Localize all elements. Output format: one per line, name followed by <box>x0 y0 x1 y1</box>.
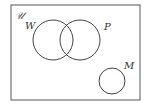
set-w-label: W <box>25 20 36 31</box>
set-m-circle <box>99 68 125 94</box>
set-p-label: P <box>103 21 111 32</box>
set-m-label: M <box>123 60 135 71</box>
set-p-circle <box>60 20 100 60</box>
set-w-circle <box>33 20 73 60</box>
venn-diagram: 𝒰 W P M <box>0 0 149 107</box>
